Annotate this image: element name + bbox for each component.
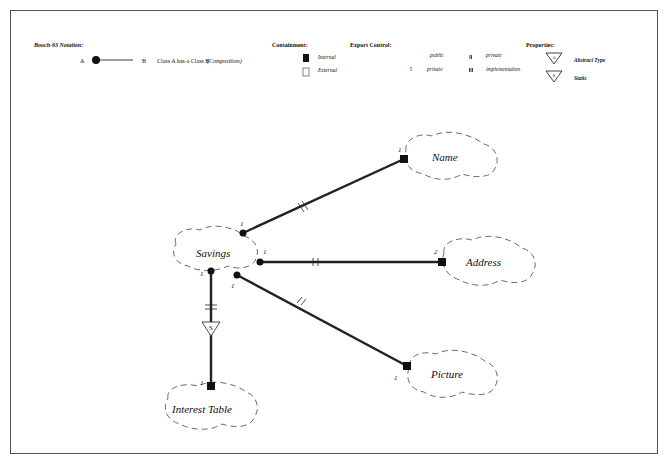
- svg-text:2: 2: [434, 248, 438, 256]
- class-name-address: Address: [465, 256, 501, 268]
- relationship-savings-name: [243, 159, 404, 233]
- class-name-picture: Picture: [430, 368, 463, 380]
- legend-composition-icon: [92, 56, 133, 64]
- composition-dot-address: [257, 259, 264, 266]
- svg-text:1: 1: [398, 146, 402, 154]
- svg-text:1: 1: [394, 374, 398, 382]
- static-triangle-icon: S: [546, 71, 562, 82]
- relationship-savings-picture: [237, 275, 407, 366]
- composition-dot-name: [240, 230, 247, 237]
- abstract-type-triangle-icon: A: [546, 53, 562, 64]
- private-marker-icon: [470, 55, 472, 59]
- svg-text:1: 1: [263, 248, 267, 256]
- class-diagram: A S S: [0, 0, 667, 468]
- internal-containment-icon: [303, 54, 309, 62]
- containment-square-interest-table: [207, 382, 215, 390]
- svg-text:S: S: [553, 73, 556, 78]
- svg-text:1: 1: [200, 270, 204, 278]
- containment-square-name: [400, 155, 408, 163]
- svg-text:S: S: [209, 324, 213, 332]
- static-property-icon: S: [202, 322, 220, 336]
- class-name-savings: Savings: [196, 247, 230, 259]
- implementation-marker-icon: [470, 68, 473, 72]
- svg-text:1: 1: [240, 220, 244, 228]
- class-name-interest-table: Interest Table: [171, 403, 232, 415]
- composition-dot-picture: [234, 272, 241, 279]
- external-containment-icon: [303, 68, 309, 76]
- class-name-name: Name: [431, 151, 458, 163]
- svg-text:1: 1: [200, 379, 204, 387]
- svg-text:A: A: [552, 55, 556, 60]
- containment-square-picture: [403, 362, 411, 370]
- containment-square-address: [438, 258, 446, 266]
- svg-text:1: 1: [231, 282, 235, 290]
- composition-dot-interest-table: [208, 268, 215, 275]
